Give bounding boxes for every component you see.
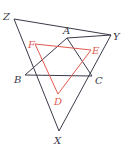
label-z: Z — [2, 11, 11, 22]
label-b: B — [13, 74, 21, 85]
label-e: E — [91, 45, 100, 56]
label-x: X — [53, 135, 62, 146]
label-f: F — [27, 39, 36, 50]
segment-ay — [67, 35, 111, 38]
geometry-diagram: Z A Y F E B C D X — [0, 0, 125, 151]
label-a: A — [62, 25, 70, 36]
label-c: C — [95, 75, 103, 86]
label-d: D — [53, 96, 62, 107]
label-y: Y — [113, 31, 121, 42]
